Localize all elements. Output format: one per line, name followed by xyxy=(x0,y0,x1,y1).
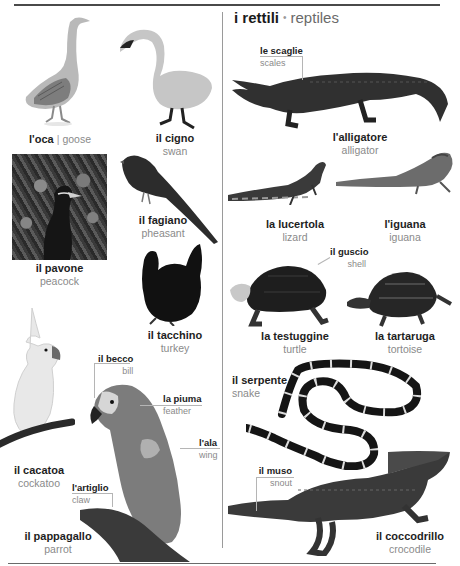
callout-line-claw xyxy=(72,493,112,494)
callout-line-scales xyxy=(260,56,302,57)
swan-image xyxy=(112,18,217,130)
cockatoo-image xyxy=(0,304,75,454)
lizard-italian: la lucertola xyxy=(255,218,335,231)
label-lizard: la lucertola lizard xyxy=(255,218,335,244)
shell-italian: il guscio xyxy=(330,246,366,258)
lizard-english: lizard xyxy=(255,231,335,244)
goose-english: goose xyxy=(62,133,91,145)
turkey-italian: il tacchino xyxy=(140,329,210,342)
scales-english: scales xyxy=(260,57,303,69)
snake-english: snake xyxy=(232,387,302,400)
crocodile-italian: il coccodrillo xyxy=(368,530,452,543)
parrot-italian: il pappagallo xyxy=(18,530,98,543)
label-peacock: il pavone peacock xyxy=(22,262,97,288)
callout-line-claw-vertical xyxy=(112,493,113,507)
iguana-english: iguana xyxy=(370,231,440,244)
alligator-image xyxy=(230,60,452,130)
pheasant-english: pheasant xyxy=(128,227,198,240)
bullet-separator: • xyxy=(283,12,287,23)
callout-line-feather xyxy=(140,405,202,406)
feather-english: feather xyxy=(163,405,202,417)
label-crocodile: il coccodrillo crocodile xyxy=(368,530,452,556)
label-tortoise: la tartaruga tortoise xyxy=(365,330,445,356)
label-parrot: il pappagallo parrot xyxy=(18,530,98,556)
tortoise-english: tortoise xyxy=(365,343,445,356)
pipe-separator: | xyxy=(57,133,60,145)
pheasant-italian: il fagiano xyxy=(128,214,198,227)
iguana-image xyxy=(336,150,460,195)
label-snake: il serpente snake xyxy=(232,374,302,400)
callout-line-wing xyxy=(180,448,220,449)
alligator-italian: l'alligatore xyxy=(320,131,400,144)
turkey-image xyxy=(130,240,210,326)
wing-english: wing xyxy=(199,449,218,461)
callout-wing: l'ala wing xyxy=(199,437,218,461)
callout-line-snout-vertical xyxy=(256,477,257,511)
feather-italian: la piuma xyxy=(163,393,202,405)
turkey-english: turkey xyxy=(140,342,210,355)
label-cockatoo: il cacatoa cockatoo xyxy=(4,464,74,490)
peacock-image xyxy=(12,154,107,260)
turtle-italian: la testuggine xyxy=(250,330,340,343)
column-divider xyxy=(222,12,223,548)
cockatoo-english: cockatoo xyxy=(4,477,74,490)
label-turkey: il tacchino turkey xyxy=(140,329,210,355)
iguana-italian: l'iguana xyxy=(370,218,440,231)
callout-claw: l'artiglio claw xyxy=(72,482,109,506)
peacock-english: peacock xyxy=(22,275,97,288)
callout-bill: il becco bill xyxy=(98,353,133,377)
cockatoo-italian: il cacatoa xyxy=(4,464,74,477)
dictionary-page: i rettili•reptiles l'oca|goose il cigno … xyxy=(0,0,460,566)
section-title-english: reptiles xyxy=(291,9,339,26)
label-goose: l'oca|goose xyxy=(20,131,100,146)
swan-italian: il cigno xyxy=(140,132,210,145)
tortoise-image xyxy=(345,266,453,328)
section-title-reptiles: i rettili•reptiles xyxy=(234,9,339,26)
callout-scales: le scaglie scales xyxy=(260,45,303,69)
turtle-english: turtle xyxy=(250,343,340,356)
snake-italian: il serpente xyxy=(232,374,302,387)
parrot-english: parrot xyxy=(18,543,98,556)
callout-line-bill-vertical xyxy=(94,363,95,398)
callout-line-bill xyxy=(94,363,130,364)
turtle-image xyxy=(228,262,336,327)
label-turtle: la testuggine turtle xyxy=(250,330,340,356)
tortoise-italian: la tartaruga xyxy=(365,330,445,343)
goose-italian: l'oca xyxy=(29,133,54,145)
claw-english: claw xyxy=(72,494,109,506)
bill-english: bill xyxy=(98,365,133,377)
crocodile-english: crocodile xyxy=(368,543,452,556)
snout-english: snout xyxy=(258,477,292,489)
peacock-italian: il pavone xyxy=(22,262,97,275)
snout-italian: il muso xyxy=(258,465,292,477)
lizard-image xyxy=(228,155,328,205)
bottom-rule xyxy=(8,563,436,564)
top-rule xyxy=(14,4,440,6)
goose-image xyxy=(20,12,95,127)
section-title-italian: i rettili xyxy=(234,9,279,26)
callout-line-scales-vertical xyxy=(302,56,303,80)
label-iguana: l'iguana iguana xyxy=(370,218,440,244)
label-pheasant: il fagiano pheasant xyxy=(128,214,198,240)
callout-line-snout xyxy=(256,477,294,478)
